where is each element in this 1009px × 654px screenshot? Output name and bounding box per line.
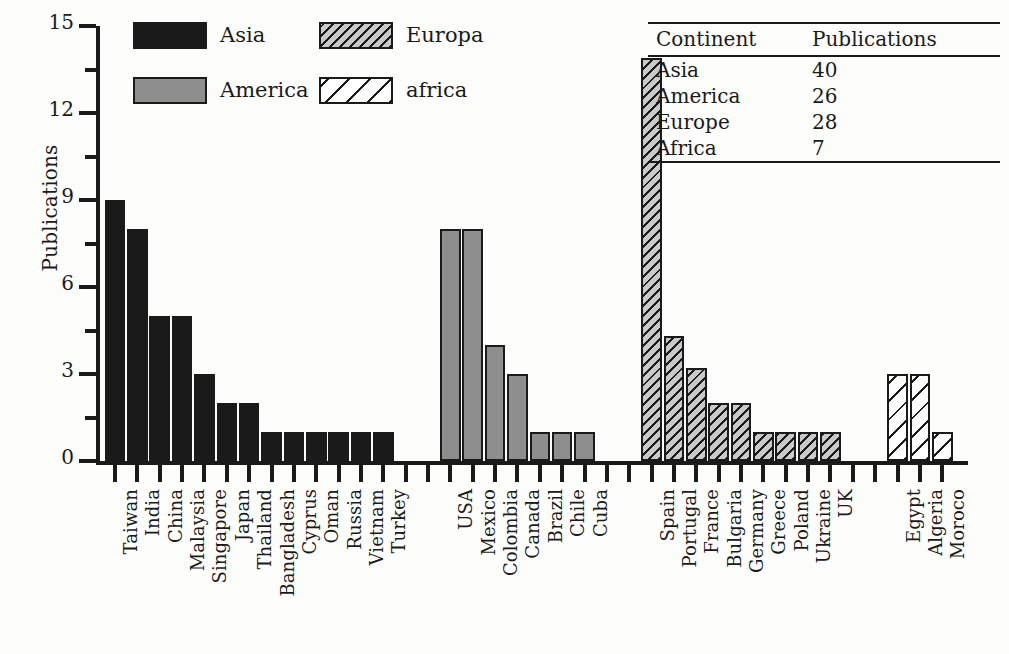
x-tick-mark xyxy=(784,465,788,482)
x-tick-mark xyxy=(448,465,452,482)
table-body: Asia40America26Europe28Africa7 xyxy=(648,56,1000,162)
y-tick-label: 9 xyxy=(14,186,74,206)
bar-egypt[interactable] xyxy=(887,374,908,461)
bar-russia[interactable] xyxy=(328,432,349,461)
bar-taiwan[interactable] xyxy=(105,200,126,461)
table-header-publications: Publications xyxy=(804,23,1000,56)
table-cell-publications: 26 xyxy=(804,83,1000,109)
x-label-china: China xyxy=(167,489,185,543)
x-label-oman: Oman xyxy=(323,489,341,544)
legend-swatch-africa-icon xyxy=(319,77,393,104)
x-tick-mark xyxy=(538,465,542,482)
legend-item-america[interactable]: America xyxy=(133,77,309,104)
x-tick-mark xyxy=(627,465,631,482)
x-label-poland: Poland xyxy=(793,489,811,551)
x-label-singapore: Singapore xyxy=(211,489,229,583)
bar-uk[interactable] xyxy=(820,432,841,461)
bar-japan[interactable] xyxy=(217,403,238,461)
x-tick-mark xyxy=(292,465,296,482)
bar-moroco[interactable] xyxy=(932,432,953,461)
y-tick-label: 6 xyxy=(14,273,74,293)
table-header-row: Continent Publications xyxy=(648,23,1000,56)
legend-swatch-america-icon xyxy=(133,77,207,104)
x-tick-mark xyxy=(202,465,206,482)
legend-item-asia[interactable]: Asia xyxy=(133,22,265,49)
y-tick-label: 3 xyxy=(14,360,74,380)
bar-germany[interactable] xyxy=(731,403,752,461)
x-label-mexico: Mexico xyxy=(480,489,498,556)
table-cell-publications: 28 xyxy=(804,109,1000,135)
y-tick-label: 12 xyxy=(14,99,74,119)
x-label-turkey: Turkey xyxy=(390,489,408,554)
y-tick-mark xyxy=(79,459,96,463)
x-label-cyprus: Cyprus xyxy=(301,489,319,555)
bar-india[interactable] xyxy=(127,229,148,461)
x-label-spain: Spain xyxy=(659,489,677,541)
bar-portugal[interactable] xyxy=(664,336,685,461)
x-tick-mark xyxy=(851,465,855,482)
bar-singapore[interactable] xyxy=(194,374,215,461)
bar-france[interactable] xyxy=(686,368,707,461)
x-tick-mark xyxy=(650,465,654,482)
legend-label-asia: Asia xyxy=(220,25,265,46)
table-cell-continent: America xyxy=(648,83,804,109)
x-label-canada: Canada xyxy=(524,489,542,559)
x-tick-mark xyxy=(672,465,676,482)
x-tick-mark xyxy=(314,465,318,482)
bar-oman[interactable] xyxy=(306,432,327,461)
y-tick-mark xyxy=(85,329,96,333)
x-tick-mark xyxy=(247,465,251,482)
x-tick-mark xyxy=(605,465,609,482)
table-row: Asia40 xyxy=(648,56,1000,83)
y-tick-mark xyxy=(79,285,96,289)
x-tick-mark xyxy=(739,465,743,482)
bar-algeria[interactable] xyxy=(910,374,931,461)
x-label-egypt: Egypt xyxy=(905,489,923,543)
y-tick-mark xyxy=(79,24,96,28)
bar-chile[interactable] xyxy=(552,432,573,461)
x-tick-mark xyxy=(583,465,587,482)
bar-canada[interactable] xyxy=(507,374,528,461)
bar-vietnam[interactable] xyxy=(351,432,372,461)
x-tick-mark xyxy=(560,465,564,482)
chart-legend: Asia America Europa africa xyxy=(133,22,473,118)
x-tick-mark xyxy=(471,465,475,482)
x-label-taiwan: Taiwan xyxy=(122,489,140,554)
bar-greece[interactable] xyxy=(753,432,774,461)
legend-item-africa[interactable]: africa xyxy=(319,77,467,104)
bar-bulgaria[interactable] xyxy=(708,403,729,461)
table-cell-publications: 7 xyxy=(804,135,1000,162)
x-tick-mark xyxy=(270,465,274,482)
y-tick-label: 15 xyxy=(14,12,74,32)
bar-turkey[interactable] xyxy=(373,432,394,461)
x-label-cuba: Cuba xyxy=(592,489,610,537)
table-row: Africa7 xyxy=(648,135,1000,162)
summary-table: Continent Publications Asia40America26Eu… xyxy=(648,22,1000,163)
x-label-uk: UK xyxy=(837,489,855,518)
x-label-germany: Germany xyxy=(748,489,766,573)
bar-brazil[interactable] xyxy=(530,432,551,461)
bar-cyprus[interactable] xyxy=(284,432,305,461)
bar-mexico[interactable] xyxy=(462,229,483,461)
bar-cuba[interactable] xyxy=(574,432,595,461)
x-label-india: India xyxy=(144,489,162,536)
bar-poland[interactable] xyxy=(775,432,796,461)
bar-usa[interactable] xyxy=(440,229,461,461)
y-tick-mark xyxy=(79,111,96,115)
x-tick-mark xyxy=(493,465,497,482)
x-tick-mark xyxy=(694,465,698,482)
table-cell-continent: Europe xyxy=(648,109,804,135)
x-tick-mark xyxy=(113,465,117,482)
x-label-greece: Greece xyxy=(770,489,788,555)
bar-china[interactable] xyxy=(149,316,170,461)
bar-bangladesh[interactable] xyxy=(261,432,282,461)
bar-thailand[interactable] xyxy=(239,403,260,461)
bar-ukraine[interactable] xyxy=(798,432,819,461)
x-tick-mark xyxy=(359,465,363,482)
bar-malaysia[interactable] xyxy=(172,316,193,461)
legend-item-europa[interactable]: Europa xyxy=(319,22,484,49)
x-tick-mark xyxy=(873,465,877,482)
x-tick-mark xyxy=(940,465,944,482)
x-tick-mark xyxy=(158,465,162,482)
bar-colombia[interactable] xyxy=(485,345,506,461)
